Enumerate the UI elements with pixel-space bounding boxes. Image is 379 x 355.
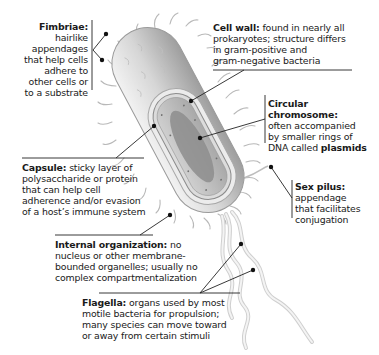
sex-pilus-line: that facilitates [295, 203, 360, 214]
label-internal-organization: Internal organization: no nucleus or oth… [55, 239, 230, 283]
label-fimbriae: Fimbriae: hairlike appendages that help … [10, 21, 88, 98]
sex-pilus-line: conjugation [295, 214, 348, 225]
label-cell-wall: Cell wall: found in nearly all prokaryot… [213, 22, 378, 66]
label-circular-chromosome: Circular chromosome: often accompanied b… [268, 98, 379, 153]
cell-wall-line: in gram-positive and [213, 44, 307, 55]
cell-wall-line: found in nearly all [260, 22, 345, 33]
chromosome-line: DNA called [268, 142, 321, 153]
flagella-line: motile bacteria for propulsion; [82, 308, 219, 319]
cell-wall-line: gram-negative bacteria [213, 55, 320, 66]
flagella-line: organs used by most [126, 297, 224, 308]
chromosome-line: often accompanied [268, 120, 356, 131]
internal-org-line: complex compartmentalization [55, 272, 197, 283]
term-fimbriae: Fimbriae: [39, 21, 88, 32]
term-circular-chromosome: Circular chromosome: [268, 98, 338, 120]
capsule-line: polysaccharide or protein [22, 173, 138, 184]
cell-wall-line: prokaryotes; structure differs [213, 33, 346, 44]
internal-org-line: nucleus or other membrane- [55, 250, 186, 261]
fimbriae-line: to a substrate [25, 87, 88, 98]
term-sex-pilus: Sex pilus: [295, 181, 345, 192]
label-flagella: Flagella: organs used by most motile bac… [82, 297, 262, 341]
fimbriae-line: appendages [32, 43, 88, 54]
internal-org-line: no [167, 239, 181, 250]
chromosome-line: by smaller rings of [268, 131, 352, 142]
fimbriae-line: that help cells [24, 54, 88, 65]
flagella-line: or away from certain stimuli [82, 330, 210, 341]
sex-pilus [244, 166, 268, 178]
capsule-line: adherence and/or evasion [22, 195, 141, 206]
label-capsule: Capsule: sticky layer of polysaccharide … [22, 162, 182, 217]
term-internal-organization: Internal organization: [55, 239, 167, 250]
label-sex-pilus: Sex pilus: appendage that facilitates co… [295, 181, 379, 225]
capsule-line: of a host’s immune system [22, 206, 145, 217]
term-cell-wall: Cell wall: [213, 22, 260, 33]
flagella-line: many species can move toward [82, 319, 227, 330]
capsule-line: that can help cell [22, 184, 101, 195]
term-plasmids: plasmids [321, 142, 367, 153]
term-flagella: Flagella: [82, 297, 126, 308]
capsule-line: sticky layer of [66, 162, 132, 173]
fimbriae-line: adhere to [44, 65, 88, 76]
fimbriae-line: other cells or [29, 76, 88, 87]
sex-pilus-line: appendage [295, 192, 346, 203]
fimbriae-line: hairlike [55, 32, 88, 43]
internal-org-line: bounded organelles; usually no [55, 261, 197, 272]
term-capsule: Capsule: [22, 162, 66, 173]
